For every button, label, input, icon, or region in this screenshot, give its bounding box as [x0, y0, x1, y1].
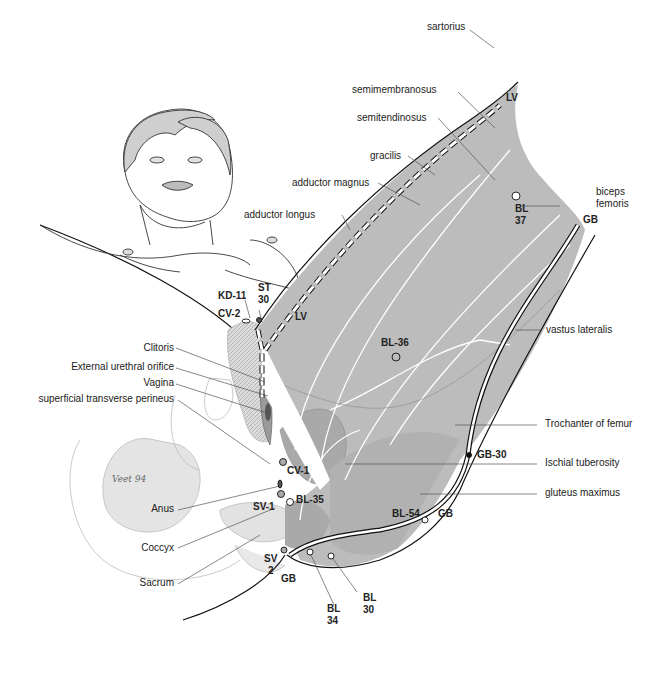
artist-signature: Veet 94: [112, 473, 146, 485]
anus-marker: [278, 480, 282, 488]
point-bl54: [422, 517, 428, 523]
label-ischial-tuberosity: Ischial tuberosity: [545, 457, 619, 469]
point-sv1: [278, 491, 285, 498]
point-bl30: [328, 553, 334, 559]
label-gb30: GB-30: [477, 449, 506, 461]
label-bl34-line2: 34: [327, 615, 338, 627]
label-cv2: CV-2: [218, 308, 240, 320]
label-coccyx: Coccyx: [60, 542, 174, 554]
label-sacrum: Sacrum: [60, 577, 174, 589]
label-external-urethral-orifice: External urethral orifice: [20, 361, 174, 373]
label-bl37-line2: 37: [515, 215, 526, 227]
label-lv-mid: LV: [295, 311, 307, 323]
label-semitendinosus: semitendinosus: [357, 112, 426, 124]
label-gb-bottom: GB: [281, 573, 296, 585]
label-st30-line2: 30: [258, 294, 269, 306]
point-bl37: [512, 192, 520, 200]
point-sv2: [281, 547, 287, 553]
label-lv-top: LV: [506, 92, 518, 104]
label-bl37-line1: BL: [515, 203, 528, 215]
point-kd11: [242, 319, 250, 323]
label-semimembranosus: semimembranosus: [352, 84, 436, 96]
label-vagina: Vagina: [60, 377, 174, 389]
point-cv1: [280, 459, 287, 466]
label-superficial-transverse-perineus: superficial transverse perineus: [0, 393, 174, 405]
label-st30-line1: ST: [258, 282, 271, 294]
label-cv1: CV-1: [287, 465, 309, 477]
point-bl36: [392, 353, 400, 361]
label-biceps-femoris-line2: femoris: [596, 198, 629, 210]
label-gb-top: GB: [583, 214, 598, 226]
label-biceps-femoris-line1: biceps: [596, 186, 625, 198]
label-bl30-line2: 30: [363, 604, 374, 616]
label-vastus-lateralis: vastus lateralis: [546, 324, 612, 336]
label-clitoris: Clitoris: [60, 342, 174, 354]
label-anus: Anus: [60, 503, 174, 515]
anatomical-diagram: sartorius semimembranosus semitendinosus…: [0, 0, 667, 678]
point-bl35: [287, 499, 294, 506]
label-sv2-line1: SV: [264, 553, 277, 565]
label-gluteus-maximus: gluteus maximus: [545, 487, 620, 499]
label-sv2-line2: 2: [268, 565, 274, 577]
label-bl34-line1: BL: [327, 603, 340, 615]
label-kd11: KD-11: [218, 290, 246, 302]
label-bl36: BL-36: [381, 337, 409, 349]
label-gracilis: gracilis: [370, 150, 401, 162]
point-st30: [257, 318, 262, 323]
label-adductor-longus: adductor longus: [244, 209, 315, 221]
label-trochanter-of-femur: Trochanter of femur: [545, 418, 632, 430]
label-gb-mid: GB: [438, 508, 453, 520]
label-sv1: SV-1: [253, 501, 275, 513]
point-gb30: [467, 453, 472, 458]
label-adductor-magnus: adductor magnus: [292, 177, 369, 189]
head-illustration: [40, 109, 300, 290]
label-bl54: BL-54: [392, 508, 420, 520]
label-sartorius: sartorius: [427, 21, 465, 33]
label-bl35: BL-35: [296, 494, 324, 506]
point-bl34: [307, 549, 313, 555]
label-bl30-line1: BL: [363, 592, 376, 604]
